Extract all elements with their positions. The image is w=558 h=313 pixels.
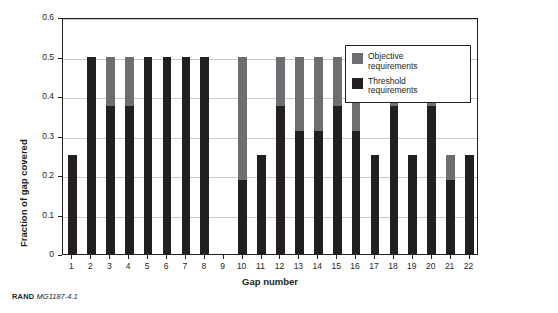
y-axis-title: Fraction of gap covered <box>18 139 29 247</box>
x-tick-label: 16 <box>345 262 365 271</box>
x-tick-label: 9 <box>213 262 233 271</box>
legend-item-threshold: Thresholdrequirements <box>352 77 464 97</box>
x-tick-mark <box>166 255 167 259</box>
y-tick-label: 0.4 <box>28 92 54 101</box>
x-tick-mark <box>279 255 280 259</box>
y-tick-label: 0 <box>28 250 54 259</box>
bar-segment <box>125 57 134 106</box>
y-tick-label: 0.2 <box>28 171 54 180</box>
y-tick-label: 0.6 <box>28 13 54 22</box>
bar-group <box>238 17 247 254</box>
bar-segment <box>446 155 455 180</box>
x-tick-label: 3 <box>99 262 119 271</box>
bar-group <box>314 17 323 254</box>
bar-segment <box>446 180 455 254</box>
x-tick-mark <box>90 255 91 259</box>
y-tick-mark <box>58 255 62 256</box>
bar-segment <box>427 106 436 254</box>
x-tick-label: 4 <box>118 262 138 271</box>
bar-segment <box>390 106 399 254</box>
bar-group <box>144 17 153 254</box>
x-tick-label: 6 <box>156 262 176 271</box>
bar-segment <box>257 155 266 254</box>
bar-group <box>219 17 228 254</box>
legend-swatch-threshold-icon <box>352 78 363 89</box>
bar-segment <box>106 57 115 106</box>
y-tick-label: 0.1 <box>28 211 54 220</box>
x-tick-label: 20 <box>421 262 441 271</box>
bar-segment <box>87 57 96 255</box>
bar-segment <box>163 57 172 255</box>
bar-segment <box>106 106 115 254</box>
bar-group <box>68 17 77 254</box>
y-tick-label: 0.5 <box>28 53 54 62</box>
bar-group <box>257 17 266 254</box>
bar-segment <box>408 155 417 254</box>
source-note: RAND MG1187-4.1 <box>12 292 78 301</box>
bar-segment <box>333 106 342 254</box>
x-tick-label: 12 <box>269 262 289 271</box>
x-tick-mark <box>71 255 72 259</box>
bar-segment <box>276 106 285 254</box>
x-tick-mark <box>298 255 299 259</box>
x-tick-label: 21 <box>440 262 460 271</box>
x-tick-mark <box>317 255 318 259</box>
x-tick-mark <box>147 255 148 259</box>
x-axis-title: Gap number <box>62 276 478 287</box>
bar-group <box>182 17 191 254</box>
rand-logo-text: RAND <box>12 292 34 301</box>
x-tick-label: 11 <box>251 262 271 271</box>
bar-group <box>163 17 172 254</box>
x-tick-mark <box>128 255 129 259</box>
bar-group <box>333 17 342 254</box>
x-tick-mark <box>450 255 451 259</box>
x-tick-label: 14 <box>307 262 327 271</box>
bar-segment <box>295 57 304 131</box>
legend-item-objective: Objectiverequirements <box>352 52 464 72</box>
bar-segment <box>314 131 323 254</box>
x-tick-mark <box>109 255 110 259</box>
bar-segment <box>333 57 342 106</box>
bar-segment <box>352 131 361 254</box>
bar-group <box>87 17 96 254</box>
x-tick-mark <box>336 255 337 259</box>
bar-segment <box>238 57 247 180</box>
bar-segment <box>371 155 380 254</box>
legend-swatch-objective-icon <box>352 53 363 64</box>
bar-group <box>200 17 209 254</box>
x-tick-label: 2 <box>80 262 100 271</box>
x-tick-mark <box>261 255 262 259</box>
x-tick-label: 17 <box>364 262 384 271</box>
x-tick-label: 10 <box>232 262 252 271</box>
bar-group <box>295 17 304 254</box>
bar-segment <box>125 106 134 254</box>
bar-group <box>125 17 134 254</box>
bar-segment <box>238 180 247 254</box>
bar-segment <box>144 57 153 255</box>
x-tick-mark <box>469 255 470 259</box>
figure-container: Fraction of gap covered 00.10.20.30.40.5… <box>0 0 558 313</box>
x-tick-mark <box>204 255 205 259</box>
x-tick-mark <box>431 255 432 259</box>
legend-label-objective: Objectiverequirements <box>368 52 418 72</box>
x-tick-label: 13 <box>288 262 308 271</box>
x-tick-mark <box>355 255 356 259</box>
bar-group <box>276 17 285 254</box>
x-tick-label: 19 <box>402 262 422 271</box>
bar-segment <box>276 57 285 106</box>
bar-group <box>106 17 115 254</box>
x-tick-mark <box>412 255 413 259</box>
x-tick-label: 15 <box>326 262 346 271</box>
legend: Objectiverequirements Thresholdrequireme… <box>345 45 471 103</box>
bar-segment <box>465 155 474 254</box>
legend-label-threshold: Thresholdrequirements <box>368 77 418 97</box>
bar-segment <box>68 155 77 254</box>
x-tick-label: 7 <box>175 262 195 271</box>
bar-segment <box>295 131 304 254</box>
y-tick-label: 0.3 <box>28 132 54 141</box>
x-tick-mark <box>242 255 243 259</box>
bar-segment <box>182 57 191 255</box>
x-tick-mark <box>223 255 224 259</box>
x-tick-label: 1 <box>61 262 81 271</box>
x-tick-label: 5 <box>137 262 157 271</box>
